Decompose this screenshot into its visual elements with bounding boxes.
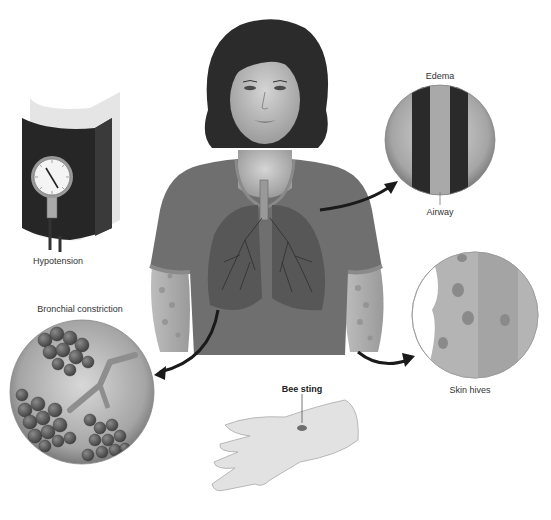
left-eye [244, 86, 256, 90]
skin-hives-inset [412, 250, 540, 380]
edema-airway-inset [385, 80, 495, 205]
bee-sting-mark [297, 425, 307, 431]
label-bee-sting: Bee sting [282, 384, 323, 394]
right-eye [274, 86, 286, 90]
label-bronchial-constriction: Bronchial constriction [37, 304, 123, 314]
label-skin-hives: Skin hives [449, 385, 490, 395]
label-airway: Airway [426, 207, 453, 217]
label-hypotension: Hypotension [33, 256, 83, 266]
bronchial-inset [10, 320, 154, 464]
hand [212, 394, 358, 491]
arrow-to-hives [358, 352, 408, 364]
bp-cuff [22, 92, 120, 252]
woman-figure [150, 19, 384, 355]
label-edema: Edema [426, 71, 455, 81]
arrowhead-bronchial [154, 366, 166, 380]
pressure-gauge [31, 156, 73, 198]
arrowhead-hives [402, 353, 415, 367]
